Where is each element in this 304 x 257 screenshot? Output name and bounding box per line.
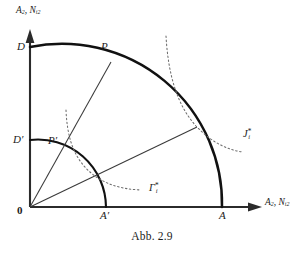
diagram-canvas bbox=[0, 0, 304, 257]
point-label-A: A bbox=[219, 210, 226, 221]
y-axis-label: A2, Ni2 bbox=[16, 6, 40, 16]
outer-transformation-arc bbox=[30, 44, 222, 207]
origin-label: 0 bbox=[17, 205, 23, 216]
point-label-D-prime: D′ bbox=[13, 134, 23, 145]
point-label-A-prime: A′ bbox=[100, 210, 109, 221]
y-axis-arrowhead bbox=[26, 29, 35, 43]
isoquant-outer-sub: i bbox=[248, 133, 250, 140]
y-axis-label-n-sub: i2 bbox=[36, 9, 41, 15]
x-axis-label: A2, Ni2 bbox=[265, 198, 289, 208]
axes-group bbox=[26, 29, 262, 211]
isoquant-inner-label: Γ*i bbox=[149, 182, 157, 194]
point-label-P: P bbox=[101, 41, 108, 52]
point-label-D: D bbox=[17, 41, 25, 52]
isoquant-outer-label: J*i bbox=[243, 128, 250, 140]
figure-container: A2, Ni2 A2, Ni2 D D′ P P′ A A′ 0 J*i Γ*i… bbox=[0, 0, 304, 257]
x-axis-arrowhead bbox=[248, 203, 262, 212]
inner-transformation-arc bbox=[30, 140, 106, 207]
x-axis-label-n-sub: i2 bbox=[285, 201, 290, 207]
ray-origin-to-P bbox=[30, 62, 111, 207]
figure-caption: Abb. 2.9 bbox=[0, 230, 304, 242]
point-label-P-prime: P′ bbox=[48, 135, 57, 146]
